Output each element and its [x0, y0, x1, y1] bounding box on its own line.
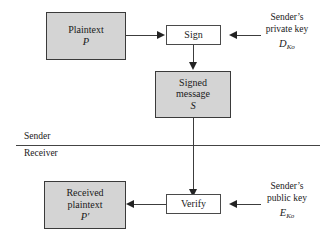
zone-label-sender: Sender	[24, 131, 50, 141]
label-senders-public-key: Sender’s public key EKo	[253, 181, 321, 220]
label-private-key-symbol-base: D	[279, 38, 287, 49]
arrowhead-sign-to-signed-message-icon	[189, 62, 197, 70]
label-private-key-line1: Sender’s	[253, 12, 321, 24]
zone-label-receiver: Receiver	[24, 148, 58, 158]
label-private-key-symbol: DKo	[279, 37, 295, 50]
node-sign-label: Sign	[184, 29, 202, 40]
arrowhead-public-key-to-verify-icon	[229, 200, 237, 208]
label-public-key-symbol: EKo	[280, 206, 295, 219]
arrowhead-verify-to-received-plaintext-icon	[126, 200, 134, 208]
divider-sender-receiver	[16, 145, 320, 146]
node-received-plaintext-label-line1: Received	[66, 187, 103, 198]
node-signed-message-symbol: S	[190, 100, 195, 112]
connector-signed-message-to-verify	[193, 118, 194, 195]
label-public-key-symbol-sub: Ko	[286, 212, 294, 220]
node-plaintext-symbol: P	[83, 36, 89, 48]
node-verify: Verify	[166, 194, 221, 214]
node-received-plaintext-symbol: P′	[81, 211, 90, 223]
label-private-key-line2: private key	[253, 24, 321, 36]
label-public-key-line2: public key	[253, 193, 321, 205]
node-plaintext: Plaintext P	[46, 12, 126, 60]
node-received-plaintext: Received plaintext P′	[44, 181, 126, 229]
node-signed-message: Signed message S	[155, 71, 231, 118]
arrowhead-private-key-to-sign-icon	[229, 31, 237, 39]
node-sign: Sign	[166, 25, 221, 45]
label-private-key-symbol-sub: Ko	[287, 43, 295, 51]
diagram-canvas: Plaintext P Sign Sender’s private key DK…	[0, 0, 327, 241]
node-plaintext-label: Plaintext	[68, 24, 104, 35]
node-received-plaintext-label-line2: plaintext	[68, 199, 103, 210]
node-signed-message-label-line1: Signed	[179, 77, 207, 88]
label-public-key-line1: Sender’s	[253, 181, 321, 193]
arrowhead-plaintext-to-sign-icon	[157, 31, 165, 39]
label-senders-private-key: Sender’s private key DKo	[253, 12, 321, 51]
node-signed-message-label-line2: message	[176, 88, 210, 99]
node-verify-label: Verify	[181, 198, 206, 209]
connector-verify-to-received-plaintext	[134, 204, 166, 205]
